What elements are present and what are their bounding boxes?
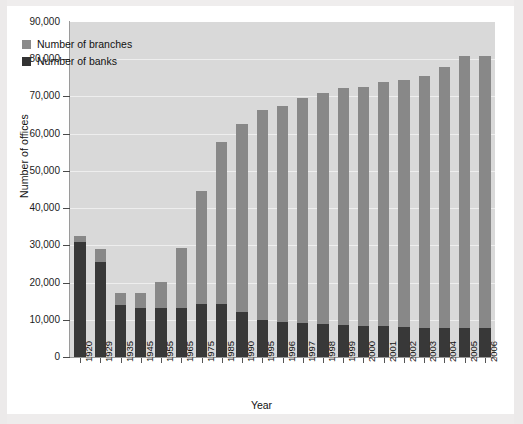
bar-group <box>74 236 85 357</box>
x-axis-title: Year <box>0 399 523 411</box>
bar-group <box>196 191 207 357</box>
x-tick-mark <box>444 358 445 363</box>
x-tick-label: 2002 <box>408 341 417 362</box>
x-tick-label: 1998 <box>327 341 336 362</box>
x-tick-mark <box>424 358 425 363</box>
bar-series-container <box>70 22 495 357</box>
y-tick-label: 20,000 <box>4 278 60 288</box>
x-tick-mark <box>303 358 304 363</box>
x-tick-label: 1920 <box>84 341 93 362</box>
x-tick-mark <box>465 358 466 363</box>
x-tick-mark <box>141 358 142 363</box>
bar-group <box>338 88 349 357</box>
x-tick-label: 2006 <box>489 341 498 362</box>
y-tick-label: 40,000 <box>4 203 60 213</box>
x-tick-label: 1999 <box>347 341 356 362</box>
x-tick-label: 2003 <box>428 341 437 362</box>
bar-segment-branches <box>297 98 308 357</box>
x-tick-mark <box>100 358 101 363</box>
x-tick-mark <box>404 358 405 363</box>
legend-label-banks: Number of banks <box>37 56 117 67</box>
bar-segment-branches <box>479 56 490 358</box>
y-tick-label: 10,000 <box>4 315 60 325</box>
x-tick-label: 2000 <box>367 341 376 362</box>
x-tick-label: 2004 <box>448 341 457 362</box>
y-tick-mark <box>63 320 70 321</box>
y-tick-label: 30,000 <box>4 240 60 250</box>
x-tick-mark <box>283 358 284 363</box>
legend-swatch-banks-icon <box>22 57 31 66</box>
bar-group <box>236 124 247 357</box>
bar-group <box>398 80 409 357</box>
y-tick-label: 60,000 <box>4 129 60 139</box>
y-tick-mark <box>63 171 70 172</box>
x-tick-label: 1945 <box>145 341 154 362</box>
bar-segment-branches <box>419 76 430 357</box>
bar-group <box>358 87 369 357</box>
bar-segment-branches <box>398 80 409 357</box>
x-tick-mark <box>323 358 324 363</box>
legend-label-branches: Number of branches <box>37 39 132 50</box>
bar-group <box>277 106 288 357</box>
bar-segment-branches <box>338 88 349 357</box>
bar-segment-branches <box>378 82 389 357</box>
x-tick-mark <box>363 358 364 363</box>
x-tick-label: 2001 <box>388 341 397 362</box>
x-tick-label: 1935 <box>125 341 134 362</box>
x-tick-mark <box>80 358 81 363</box>
plot-area <box>70 22 495 357</box>
bar-group <box>419 76 430 357</box>
x-tick-label: 1985 <box>226 341 235 362</box>
y-tick-label: 0 <box>4 352 60 362</box>
bar-group <box>257 110 268 357</box>
x-tick-label: 1997 <box>307 341 316 362</box>
x-tick-mark <box>222 358 223 363</box>
y-tick-mark <box>63 357 70 358</box>
y-tick-mark <box>63 245 70 246</box>
y-tick-mark <box>63 96 70 97</box>
x-tick-label: 1955 <box>165 341 174 362</box>
y-tick-mark <box>63 208 70 209</box>
y-tick-label: 70,000 <box>4 91 60 101</box>
x-tick-mark <box>485 358 486 363</box>
bar-group <box>297 98 308 357</box>
x-tick-mark <box>384 358 385 363</box>
x-tick-label: 1975 <box>206 341 215 362</box>
x-tick-mark <box>121 358 122 363</box>
x-tick-label: 1929 <box>104 341 113 362</box>
bar-group <box>479 56 490 358</box>
x-tick-mark <box>242 358 243 363</box>
bar-segment-banks <box>74 242 85 357</box>
legend-swatch-branches-icon <box>22 40 31 49</box>
x-tick-label: 1965 <box>185 341 194 362</box>
bar-group <box>378 82 389 357</box>
bar-group <box>317 93 328 357</box>
bar-group <box>216 142 227 357</box>
chart-page: Number of offices 90,00080,00070,00060,0… <box>0 0 523 424</box>
y-tick-label: 90,000 <box>4 17 60 27</box>
x-tick-label: 1995 <box>266 341 275 362</box>
y-tick-mark <box>63 283 70 284</box>
legend-item-branches: Number of branches <box>22 38 132 51</box>
y-tick-mark <box>63 134 70 135</box>
bar-segment-branches <box>358 87 369 357</box>
bar-segment-branches <box>439 67 450 357</box>
bar-segment-branches <box>277 106 288 357</box>
x-tick-label: 2005 <box>469 341 478 362</box>
x-tick-mark <box>262 358 263 363</box>
x-tick-mark <box>161 358 162 363</box>
bar-segment-branches <box>459 56 470 357</box>
x-tick-label: 1990 <box>246 341 255 362</box>
x-tick-label: 1996 <box>287 341 296 362</box>
x-tick-mark <box>202 358 203 363</box>
bar-group <box>459 56 470 357</box>
bar-group <box>439 67 450 357</box>
legend-item-banks: Number of banks <box>22 55 132 68</box>
chart-legend: Number of branches Number of banks <box>22 38 132 72</box>
x-tick-mark <box>343 358 344 363</box>
x-tick-mark <box>181 358 182 363</box>
y-tick-label: 50,000 <box>4 166 60 176</box>
bar-segment-branches <box>317 93 328 357</box>
